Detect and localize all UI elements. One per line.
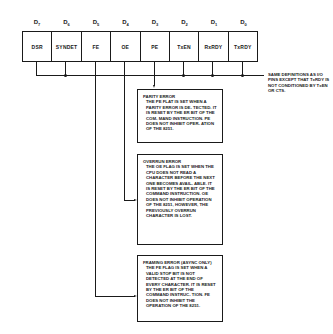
- bit-label-sub: 2: [186, 22, 188, 27]
- note-body: THE FE FLAG IS SET WHEN A VALID STOP BIT…: [143, 265, 217, 308]
- connector-fe: [95, 62, 96, 297]
- connector-oe: [124, 62, 125, 200]
- note-body: THE PE FLAT IS SET WHEN A PARITY ERROR I…: [143, 99, 217, 131]
- register-cell-dsr: DSR: [23, 32, 52, 61]
- bit-label-d0: D0: [229, 19, 259, 27]
- bit-label-d2: D2: [170, 19, 200, 27]
- bit-label-sub: 5: [97, 22, 99, 27]
- arrow-down-icon: [153, 85, 155, 88]
- register-cell-fe: FE: [82, 32, 111, 61]
- bit-label-sub: 0: [245, 22, 247, 27]
- bit-label-sub: 4: [127, 22, 129, 27]
- register-cell-pe: PE: [141, 32, 170, 61]
- bit-label-sub: 3: [156, 22, 158, 27]
- junction-dot: [211, 74, 214, 77]
- junction-dot: [182, 74, 185, 77]
- bit-label-d7: D7: [22, 19, 52, 27]
- bit-label-d6: D6: [52, 19, 82, 27]
- bit-label-sub: 6: [68, 22, 70, 27]
- junction-dot: [241, 74, 244, 77]
- connector-fe-horizontal: [95, 296, 135, 297]
- status-register: DSR SYNDET FE OE PE TxEN RxRDY TxRDY: [22, 31, 258, 62]
- bit-label-sub: 7: [38, 22, 40, 27]
- register-cell-rxrdy: RxRDY: [199, 32, 228, 61]
- register-cell-oe: OE: [111, 32, 140, 61]
- bit-label-d5: D5: [81, 19, 111, 27]
- bit-label-d3: D3: [140, 19, 170, 27]
- register-cell-txen: TxEN: [170, 32, 199, 61]
- junction-dot: [64, 74, 67, 77]
- register-cell-txrdy: TxRDY: [229, 32, 257, 61]
- bit-label-sub: 1: [215, 22, 217, 27]
- note-body: THE OE FLAG IS SET WHEN THE CPU DOES NOT…: [143, 164, 217, 218]
- note-overrun-error: OVERRUN ERROR THE OE FLAG IS SET WHEN TH…: [137, 154, 223, 245]
- side-note-pin-definitions: SAME DEFINITIONS AS I/O PINS EXCEPT THAT…: [268, 72, 332, 94]
- bit-label-d1: D1: [199, 19, 229, 27]
- connector-pe: [154, 62, 155, 86]
- bus-line: [36, 75, 264, 76]
- register-cell-syndet: SYNDET: [52, 32, 81, 61]
- note-framing-error: FRAMING ERROR (ASYNC ONLY) THE FE FLAG I…: [137, 255, 223, 322]
- bit-label-d4: D4: [111, 19, 141, 27]
- connector-dsr: [36, 62, 37, 75]
- note-parity-error: PARITY ERROR THE PE FLAT IS SET WHEN A P…: [137, 89, 223, 143]
